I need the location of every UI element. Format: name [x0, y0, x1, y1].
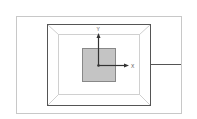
- diagram-canvas: Y X: [0, 0, 197, 119]
- y-axis-label: Y: [97, 26, 101, 32]
- x-axis-label: X: [131, 63, 135, 69]
